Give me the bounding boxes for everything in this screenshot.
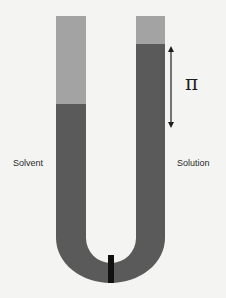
osmotic-pressure-symbol: π: [185, 73, 198, 93]
u-tube-graphic: [0, 0, 226, 298]
right-arm-empty: [136, 16, 165, 44]
pressure-arrow: [168, 46, 174, 128]
solvent-label: Solvent: [13, 159, 43, 168]
osmosis-diagram: π Solvent Solution: [0, 0, 226, 298]
solution-label: Solution: [177, 159, 210, 168]
membrane: [108, 255, 114, 283]
left-arm-empty: [56, 16, 86, 104]
